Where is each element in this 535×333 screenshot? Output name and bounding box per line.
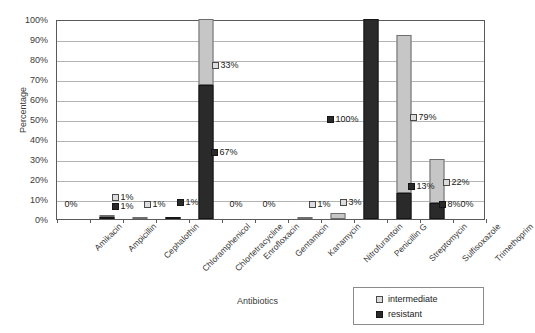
intermediate-swatch-icon [144, 201, 151, 208]
plot-area: 0%1%1%1%1%33%67%0%0%1%3%100%79%13%22%8%0… [56, 20, 485, 220]
data-label-value: 1% [318, 199, 331, 209]
data-label-value: 100% [336, 114, 359, 124]
y-tick-label: 10% [30, 196, 48, 205]
bar-column[interactable] [90, 21, 123, 219]
data-label: 33% [212, 60, 239, 70]
intermediate-swatch-icon [410, 114, 417, 121]
x-tick-label: Ampicillin [126, 222, 158, 254]
x-tick-label: Cephalothin [162, 222, 200, 260]
bar-segment-resistant[interactable] [396, 193, 411, 219]
stacked-bar[interactable] [462, 19, 477, 219]
chart-legend: intermediate resistant [353, 287, 484, 325]
data-label: 1% [177, 197, 199, 207]
stacked-bar[interactable] [66, 19, 81, 219]
resistant-swatch-icon [408, 183, 415, 190]
bar-segment-intermediate[interactable] [297, 217, 312, 219]
data-label: 100% [327, 114, 359, 124]
data-label-value: 67% [220, 147, 238, 157]
bar-segment-intermediate[interactable] [330, 213, 345, 219]
data-label: 8% [439, 199, 461, 209]
bar-segment-resistant[interactable] [165, 217, 180, 219]
bar-column[interactable] [123, 21, 156, 219]
legend-label-intermediate: intermediate [388, 292, 438, 307]
data-label-value: 13% [417, 181, 435, 191]
legend-label-resistant: resistant [388, 307, 422, 322]
y-tick-label: 50% [30, 116, 48, 125]
resistant-swatch-icon [211, 149, 218, 156]
x-tick-label: Kanamycin [326, 222, 362, 258]
bar-column[interactable] [288, 21, 321, 219]
data-label: 67% [211, 147, 238, 157]
data-label: 13% [408, 181, 435, 191]
stacked-bar[interactable] [363, 19, 378, 219]
bar-segment-intermediate[interactable] [132, 217, 147, 219]
data-label: 0% [461, 199, 474, 209]
x-axis-tick [486, 219, 487, 223]
y-tick-label: 80% [30, 56, 48, 65]
bar-column[interactable] [189, 21, 222, 219]
stacked-bar[interactable] [99, 19, 114, 219]
y-tick-label: 0% [35, 216, 48, 225]
intermediate-swatch-icon [309, 201, 316, 208]
y-tick-label: 30% [30, 156, 48, 165]
data-label-value: 8% [448, 199, 461, 209]
intermediate-swatch-icon [212, 62, 219, 69]
data-label-value: 1% [153, 199, 166, 209]
intermediate-swatch-icon [112, 194, 119, 201]
y-axis-tick-labels: 100%90%80%70%60%50%40%30%20%10%0% [0, 20, 52, 220]
data-label: 3% [340, 197, 362, 207]
legend-item-resistant: resistant [376, 307, 483, 322]
data-label-value: 33% [221, 60, 239, 70]
data-label: 22% [443, 177, 470, 187]
bar-column[interactable] [354, 21, 387, 219]
data-label: 1% [144, 199, 166, 209]
data-label-value: 0% [230, 199, 243, 209]
resistant-swatch-icon [112, 203, 119, 210]
bar-segment-resistant[interactable] [99, 217, 114, 219]
data-label-value: 0% [65, 199, 78, 209]
intermediate-swatch-icon [376, 296, 383, 303]
data-label: 0% [263, 199, 276, 209]
data-label-value: 79% [419, 112, 437, 122]
y-tick-label: 70% [30, 76, 48, 85]
data-label: 1% [309, 199, 331, 209]
bar-segment-intermediate[interactable] [198, 19, 213, 85]
data-label-value: 1% [121, 201, 134, 211]
stacked-bar[interactable] [231, 19, 246, 219]
resistant-swatch-icon [376, 311, 383, 318]
data-label-value: 0% [461, 199, 474, 209]
data-label: 0% [65, 199, 78, 209]
intermediate-swatch-icon [443, 179, 450, 186]
stacked-bar[interactable] [264, 19, 279, 219]
y-tick-label: 40% [30, 136, 48, 145]
data-label-value: 22% [452, 177, 470, 187]
resistant-swatch-icon [177, 199, 184, 206]
resistant-swatch-icon [439, 201, 446, 208]
bar-segment-resistant[interactable] [363, 19, 378, 219]
stacked-bar[interactable] [297, 19, 312, 219]
stacked-bar[interactable] [198, 19, 213, 219]
data-label: 79% [410, 112, 437, 122]
y-tick-label: 90% [30, 36, 48, 45]
data-label: 0% [230, 199, 243, 209]
bar-column[interactable] [57, 21, 90, 219]
y-tick-label: 100% [25, 16, 48, 25]
legend-item-intermediate: intermediate [376, 292, 483, 307]
bar-column[interactable] [222, 21, 255, 219]
data-label-value: 1% [186, 197, 199, 207]
x-axis-tick-labels: AmikacinAmpicillinCephalothinChloramphen… [56, 222, 485, 294]
stacked-bar[interactable] [132, 19, 147, 219]
bar-segment-intermediate[interactable] [99, 215, 114, 217]
bar-column[interactable] [255, 21, 288, 219]
intermediate-swatch-icon [340, 199, 347, 206]
stacked-bar[interactable] [165, 19, 180, 219]
data-label-value: 0% [263, 199, 276, 209]
data-label-value: 3% [349, 197, 362, 207]
data-label: 1% [112, 201, 134, 211]
bar-column[interactable] [156, 21, 189, 219]
x-tick-label: Amikacin [93, 222, 124, 253]
y-tick-label: 20% [30, 176, 48, 185]
y-tick-label: 60% [30, 96, 48, 105]
bar-column[interactable] [453, 21, 486, 219]
